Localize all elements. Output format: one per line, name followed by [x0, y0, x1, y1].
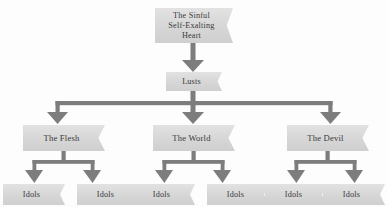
node-label: The Devil: [307, 133, 348, 143]
node-label: The World: [172, 133, 215, 143]
node-idols-world-2[interactable]: Idols: [207, 184, 269, 205]
node-label: Idols: [227, 190, 249, 200]
edge-lusts-to-branches: [47, 91, 341, 124]
edge-root-to-lusts: [182, 43, 204, 72]
node-label: Idols: [153, 190, 175, 200]
node-the-flesh[interactable]: The Flesh: [23, 125, 105, 151]
node-lusts[interactable]: Lusts: [166, 72, 222, 91]
node-the-devil[interactable]: The Devil: [287, 125, 369, 151]
node-label: The Flesh: [44, 133, 85, 143]
node-idols-flesh-2[interactable]: Idols: [77, 184, 139, 205]
node-idols-flesh-1[interactable]: Idols: [3, 184, 65, 205]
edge-flesh-to-idols: [25, 151, 101, 183]
node-the-world[interactable]: The World: [153, 125, 235, 151]
edge-world-to-idols: [155, 151, 231, 183]
node-label: Idols: [97, 190, 119, 200]
node-idols-world-1[interactable]: Idols: [133, 184, 195, 205]
edge-devil-to-idols: [287, 151, 363, 183]
flowchart-canvas: The Sinful Self-Exalting Heart Lusts The…: [0, 0, 388, 207]
node-label: Lusts: [182, 77, 206, 87]
node-label: Idols: [285, 190, 307, 200]
node-idols-devil-1[interactable]: Idols: [265, 184, 327, 205]
node-label: The Sinful Self-Exalting Heart: [168, 11, 219, 41]
node-label: Idols: [343, 190, 365, 200]
node-idols-devil-2[interactable]: Idols: [323, 184, 385, 205]
node-sinful-self-exalting-heart[interactable]: The Sinful Self-Exalting Heart: [155, 8, 233, 43]
node-label: Idols: [23, 190, 45, 200]
